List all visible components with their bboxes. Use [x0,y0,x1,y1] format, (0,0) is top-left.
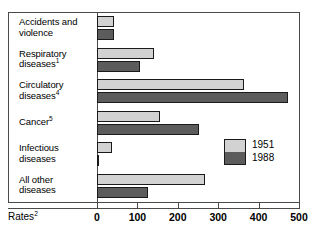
category-label: Circulatorydiseases4 [19,80,103,101]
bar-group [97,16,299,41]
x-axis-tick [218,203,219,209]
x-axis-tick-label: 100 [117,211,157,223]
bar-1988 [97,124,199,135]
legend-swatch-1951 [225,140,245,152]
category-label: Infectiousdiseases [19,143,103,164]
x-axis-caption-text: Rates [8,211,34,222]
bar-1951 [97,48,154,59]
x-axis-tick [299,203,300,209]
bar-1951 [97,142,112,153]
category-label-line: Cancer5 [19,117,103,128]
category-label-line: violence [19,28,103,39]
x-axis-tick-label: 500 [279,211,312,223]
x-axis-tick-label: 400 [239,211,279,223]
bar-group [97,48,299,73]
x-axis: 0100200300400500 [8,203,300,230]
bar-1988 [97,92,288,103]
legend-swatch-box [224,139,246,165]
category-label-footnote: 4 [56,88,60,95]
legend: 1951 1988 [224,139,296,169]
category-label-line: Infectious [19,143,103,154]
bar-1951 [97,174,205,185]
bars-area [97,13,299,202]
bar-group [97,79,299,104]
x-axis-caption: Rates2 [8,211,38,222]
bar-1951 [97,111,160,122]
bar-1988 [97,29,114,40]
x-axis-tick [137,203,138,209]
category-label-line: diseases4 [19,91,103,102]
legend-label-1988: 1988 [252,152,274,164]
bar-1988 [97,155,99,166]
x-axis-tick [97,203,98,209]
category-label: All otherdiseases [19,175,103,196]
legend-label-1951: 1951 [252,139,274,151]
category-label: Respiratorydiseases1 [19,49,103,70]
category-label-footnote: 1 [56,57,60,64]
x-axis-tick [259,203,260,209]
category-label-footnote: 5 [49,114,53,121]
bar-1951 [97,79,244,90]
bar-1988 [97,187,148,198]
x-axis-tick-label: 300 [198,211,238,223]
category-label-column: Accidents andviolenceRespiratorydiseases… [9,13,97,202]
x-axis-tick-label: 200 [158,211,198,223]
x-axis-tick-label: 0 [77,211,117,223]
x-axis-tick [178,203,179,209]
bar-1951 [97,16,114,27]
bar-chart: Accidents andviolenceRespiratorydiseases… [0,0,312,230]
category-label-line: diseases1 [19,59,103,70]
legend-swatch-1988 [225,152,245,164]
category-label-line: Circulatory [19,80,103,91]
category-label-line: diseases [19,154,103,165]
x-axis-rule [8,208,300,209]
category-label-line: Accidents and [19,17,103,28]
bar-1988 [97,61,140,72]
bar-group [97,111,299,136]
category-label: Cancer5 [19,117,103,128]
category-label: Accidents andviolence [19,17,103,38]
x-axis-caption-footnote: 2 [34,210,38,217]
bar-group [97,174,299,199]
category-label-line: diseases [19,185,103,196]
